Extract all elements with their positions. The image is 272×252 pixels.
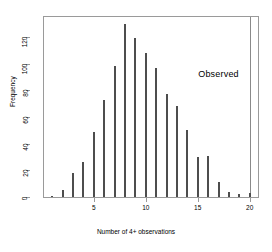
bar (124, 24, 126, 197)
y-axis-tick-label: 40 (22, 143, 29, 150)
observed-annotation-label: Observed (198, 69, 239, 79)
bar (103, 100, 105, 197)
bar (176, 106, 178, 197)
bar (145, 53, 147, 197)
x-axis-tick (198, 198, 199, 202)
bar (51, 196, 53, 197)
bar (82, 162, 84, 197)
y-axis-tick-label: 20 (22, 170, 29, 177)
bar (207, 156, 209, 197)
y-axis-title: Frequency (9, 76, 16, 107)
bar (238, 194, 240, 197)
bar (218, 182, 220, 197)
x-axis-tick-label: 15 (194, 204, 201, 211)
bar (155, 68, 157, 197)
bar (228, 192, 230, 197)
bar (62, 190, 64, 197)
y-axis-tick-label: 100 (22, 63, 29, 74)
y-axis-tick-label: 80 (22, 90, 29, 97)
histogram-figure: Frequency 020406080100120 Observed Numbe… (0, 0, 272, 252)
x-axis-tick (94, 198, 95, 202)
y-axis-tick-label: 60 (22, 117, 29, 124)
x-axis-tick-label: 10 (142, 204, 149, 211)
x-axis: Number of 4+ observations 5101520 (0, 198, 272, 252)
x-axis-tick (146, 198, 147, 202)
bar (249, 193, 251, 197)
observed-reference-line (250, 17, 251, 197)
x-axis-tick-label: 20 (246, 204, 253, 211)
bar (197, 157, 199, 197)
bar (114, 66, 116, 197)
bar (166, 94, 168, 197)
bar (93, 132, 95, 197)
bars-layer (44, 17, 258, 197)
bar (186, 130, 188, 197)
y-axis-tick-label: 120 (22, 37, 29, 48)
bar (72, 173, 74, 197)
bar (134, 38, 136, 197)
x-axis-tick (250, 198, 251, 202)
x-axis-title: Number of 4+ observations (97, 228, 175, 235)
x-axis-tick-label: 5 (92, 204, 96, 211)
